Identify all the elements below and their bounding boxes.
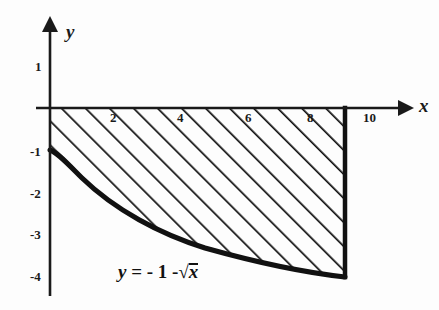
- figure-canvas: 2 4 6 8 10 1 -1 -2 -3 -4 y x y = - 1 -√x: [0, 0, 439, 310]
- equation-equals: =: [131, 261, 142, 282]
- plot-svg: [0, 0, 439, 310]
- sqrt-icon: √: [178, 261, 188, 282]
- y-tick-label-minus-1: -1: [30, 145, 41, 158]
- equation-minus-one: - 1: [147, 261, 168, 282]
- x-tick-label-4: 4: [177, 111, 184, 124]
- y-axis-label: y: [66, 22, 74, 41]
- x-tick-label-8: 8: [307, 111, 314, 124]
- y-tick-label-minus-3: -3: [30, 228, 41, 241]
- y-tick-label-1: 1: [35, 60, 42, 73]
- x-tick-label-6: 6: [245, 111, 252, 124]
- shaded-region: [40, 100, 360, 290]
- y-axis-arrowhead: [42, 16, 58, 32]
- y-tick-label-minus-2: -2: [30, 187, 41, 200]
- equation-square-root: √x: [178, 262, 198, 281]
- curve-equation-label: y = - 1 -√x: [118, 262, 198, 281]
- x-tick-label-10: 10: [363, 111, 376, 124]
- x-axis-arrowhead: [398, 100, 414, 116]
- x-tick-label-2: 2: [110, 111, 117, 124]
- sqrt-overbar: [189, 263, 198, 265]
- x-axis-label: x: [419, 96, 429, 115]
- y-tick-label-minus-4: -4: [30, 270, 41, 283]
